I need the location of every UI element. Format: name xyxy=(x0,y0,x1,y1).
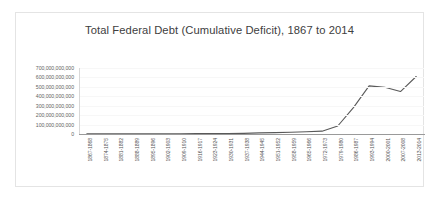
gridline xyxy=(79,77,424,78)
x-tick-label: 1909-1910 xyxy=(181,138,187,161)
gridline xyxy=(79,115,424,116)
y-tick-label: 0 xyxy=(71,131,74,137)
x-tick-label: 1944-1945 xyxy=(259,138,265,161)
x-tick-label: 2000-2001 xyxy=(385,138,391,161)
y-axis-line xyxy=(79,68,80,134)
y-tick-label: 600,000,000,000 xyxy=(36,74,74,80)
x-tick-label: 2007-2008 xyxy=(400,138,406,161)
x-tick-label: 1867-1868 xyxy=(87,138,93,161)
x-tick-label: 1874-1875 xyxy=(103,138,109,161)
x-tick-label: 1958-1959 xyxy=(291,138,297,161)
x-tick-label: 1937-1938 xyxy=(244,138,250,161)
plot-area xyxy=(79,68,424,134)
chart-container: Total Federal Debt (Cumulative Deficit),… xyxy=(15,12,424,187)
x-tick-label: 1930-1931 xyxy=(228,138,234,161)
x-tick-label: 1979-1980 xyxy=(338,138,344,161)
gridline xyxy=(79,96,424,97)
x-tick-label: 1888-1889 xyxy=(134,138,140,161)
x-tick-label: 1993-1994 xyxy=(369,138,375,161)
x-tick-label: 1951-1952 xyxy=(275,138,281,161)
x-tick-label: 1916-1917 xyxy=(197,138,203,161)
x-axis-line xyxy=(79,134,425,135)
x-tick-label: 1881-1882 xyxy=(118,138,124,161)
x-tick-label: 1972-1973 xyxy=(322,138,328,161)
x-tick-label: 1965-1966 xyxy=(306,138,312,161)
y-tick-label: 400,000,000,000 xyxy=(36,93,74,99)
gridline xyxy=(79,106,424,107)
x-axis: 1867-18681874-18751881-18821888-18891895… xyxy=(79,136,424,188)
y-tick-label: 500,000,000,000 xyxy=(36,84,74,90)
x-tick-label: 1923-1924 xyxy=(212,138,218,161)
y-tick-label: 200,000,000,000 xyxy=(36,112,74,118)
gridline xyxy=(79,68,424,69)
y-tick-label: 100,000,000,000 xyxy=(36,122,74,128)
y-tick-label: 300,000,000,000 xyxy=(36,103,74,109)
x-tick-label: 1986-1987 xyxy=(353,138,359,161)
gridline xyxy=(79,125,424,126)
y-tick-label: 700,000,000,000 xyxy=(36,65,74,71)
x-tick-label: 1902-1903 xyxy=(165,138,171,161)
x-tick-label: 2013-2014 xyxy=(416,138,422,161)
x-tick-label: 1895-1896 xyxy=(150,138,156,161)
y-axis: 0100,000,000,000200,000,000,000300,000,0… xyxy=(16,68,76,134)
gridline xyxy=(79,87,424,88)
chart-title: Total Federal Debt (Cumulative Deficit),… xyxy=(16,24,423,36)
